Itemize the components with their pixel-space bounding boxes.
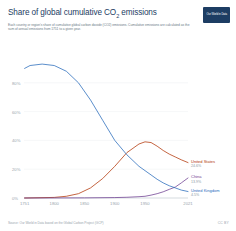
series-line-china[interactable] (25, 178, 188, 198)
legend-item-name: United Kingdom (191, 188, 219, 193)
chart-subtitle: Each country or region's share of cumula… (8, 23, 194, 32)
source-note: Source: Our World in Data based on the G… (8, 221, 104, 225)
y-tick-label: 0% (12, 196, 18, 201)
legend-item-value: 13.9% (191, 180, 201, 185)
legend-item-value: 24.6% (191, 164, 215, 169)
x-tick-label: 1900 (110, 201, 119, 206)
y-tick-label: 80% (12, 80, 20, 85)
x-tick-label: 1950 (140, 201, 149, 206)
owid-logo: Our World in Data (203, 7, 230, 23)
x-tick-label: 1850 (80, 201, 89, 206)
legend-item-value: 4.5% (191, 193, 219, 198)
license-note: CC BY (218, 221, 229, 225)
title-tail: emissions (119, 8, 157, 17)
series-line-united-kingdom[interactable] (25, 64, 188, 191)
y-tick-label: 40% (12, 138, 20, 143)
y-tick-label: 60% (12, 109, 20, 114)
axis-layer (24, 83, 188, 198)
plot-area: 0%20%40%60%80% 175118001850190019502021 … (0, 50, 236, 210)
legend-item-united-states[interactable]: United States24.6% (191, 160, 215, 169)
series-layer (25, 64, 188, 198)
series-line-united-states[interactable] (25, 142, 188, 198)
legend-item-china[interactable]: China13.9% (191, 175, 201, 184)
x-tick-label: 1751 (20, 201, 29, 206)
owid-logo-text: Our World in Data (206, 13, 226, 16)
legend-item-name: China (191, 174, 201, 179)
chart-svg (0, 50, 236, 210)
chart-card: Share of global cumulative CO2 emissions… (0, 0, 236, 231)
y-tick-label: 20% (12, 167, 20, 172)
page-title: Share of global cumulative CO2 emissions (8, 8, 194, 21)
title-main: Share of global cumulative CO (8, 8, 116, 17)
chart-header: Share of global cumulative CO2 emissions… (8, 8, 194, 31)
x-tick-label: 2021 (183, 201, 192, 206)
x-tick-label: 1800 (50, 201, 59, 206)
legend-item-united-kingdom[interactable]: United Kingdom4.5% (191, 189, 219, 198)
legend-item-name: United States (191, 159, 215, 164)
